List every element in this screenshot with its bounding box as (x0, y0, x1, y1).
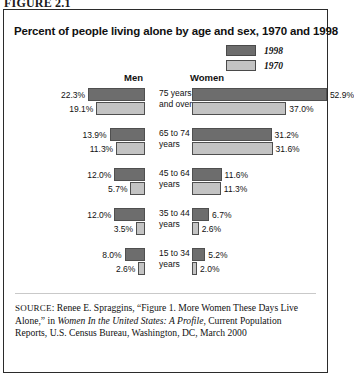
age-group-label: 65 to 74years (159, 128, 193, 149)
bar-men-1998 (88, 88, 145, 101)
bar-value-women-1998: 5.2% (208, 250, 227, 260)
column-header-men: Men (124, 72, 143, 83)
bar-value-women-1970: 2.6% (202, 224, 221, 234)
bar-group-women-1998: 6.7% (192, 208, 209, 221)
age-group-label-line2: years (159, 139, 193, 150)
age-group-label: 75 yearsand over (159, 88, 193, 109)
bar-group-men-1998: 22.3% (88, 88, 145, 101)
age-group-label-line1: 75 years (159, 88, 193, 99)
bar-group-women-1998: 11.6% (192, 168, 222, 181)
bar-group-women-1970: 2.0% (192, 262, 197, 275)
bar-group-women-1970: 31.6% (192, 142, 273, 155)
bar-value-men-1970: 5.7% (108, 184, 127, 194)
bar-men-1998 (114, 168, 145, 181)
bar-value-women-1998: 6.7% (212, 210, 231, 220)
bar-women-1970 (192, 222, 199, 235)
legend-label-1970: 1970 (264, 61, 283, 71)
chart-row: 75 yearsand over22.3%19.1%52.9%37.0% (4, 86, 327, 126)
age-group-label-line1: 35 to 44 (159, 208, 193, 219)
bar-value-men-1970: 3.5% (114, 224, 133, 234)
bar-men-1970 (138, 262, 145, 275)
bar-women-1970 (192, 262, 197, 275)
chart-row: 45 to 64years12.0%5.7%11.6%11.3% (4, 166, 327, 206)
chart-area: Percent of people living alone by age an… (4, 10, 327, 291)
chart-row: 35 to 44years12.0%3.5%6.7%2.6% (4, 206, 327, 246)
age-group-label-line2: and over (159, 99, 193, 110)
source-divider (15, 293, 316, 294)
chart-title: Percent of people living alone by age an… (14, 25, 338, 37)
bar-value-men-1998: 12.0% (87, 210, 111, 220)
chart-row: 65 to 74years13.9%11.3%31.2%31.6% (4, 126, 327, 166)
bar-group-women-1970: 2.6% (192, 222, 199, 235)
bar-value-women-1970: 11.3% (224, 184, 247, 194)
chart-rows: 75 yearsand over22.3%19.1%52.9%37.0%65 t… (4, 86, 327, 286)
bar-men-1970 (130, 182, 145, 195)
bar-value-men-1998: 22.3% (61, 90, 85, 100)
bar-women-1970 (192, 142, 273, 155)
bar-group-men-1970: 2.6% (138, 262, 145, 275)
age-group-label: 15 to 34years (159, 248, 193, 269)
bar-value-women-1970: 2.0% (200, 264, 219, 274)
age-group-label-line1: 15 to 34 (159, 248, 193, 259)
bar-women-1970 (192, 102, 286, 115)
bar-group-women-1970: 11.3% (192, 182, 221, 195)
chart-row: 15 to 34years8.0%2.6%5.2%2.0% (4, 246, 327, 286)
legend-swatch-1970 (226, 60, 256, 71)
bar-men-1998 (125, 248, 145, 261)
bar-women-1970 (192, 182, 221, 195)
bar-group-men-1970: 3.5% (136, 222, 145, 235)
bar-group-men-1998: 13.9% (110, 128, 145, 141)
bar-group-women-1998: 5.2% (192, 248, 205, 261)
age-group-label: 35 to 44years (159, 208, 193, 229)
legend-item-1970: 1970 (226, 59, 318, 72)
bar-women-1998 (192, 128, 272, 141)
bar-value-women-1970: 31.6% (276, 144, 300, 154)
bar-group-women-1998: 52.9% (192, 88, 327, 101)
legend-item-1998: 1998 (226, 44, 318, 57)
bar-men-1970 (136, 222, 145, 235)
bar-group-women-1998: 31.2% (192, 128, 272, 141)
bar-value-women-1998: 52.9% (330, 90, 354, 100)
bar-women-1998 (192, 168, 222, 181)
source-note: SOURCE: Renee E. Spraggins, “Figure 1. M… (15, 302, 315, 340)
bar-value-women-1998: 31.2% (275, 130, 299, 140)
bar-men-1970 (116, 142, 145, 155)
age-group-label: 45 to 64years (159, 168, 193, 189)
legend-label-1998: 1998 (264, 46, 283, 56)
bar-group-men-1970: 19.1% (96, 102, 145, 115)
bar-value-men-1970: 2.6% (116, 264, 135, 274)
bar-group-men-1970: 5.7% (130, 182, 145, 195)
bar-women-1998 (192, 88, 327, 101)
bar-value-men-1998: 8.0% (102, 250, 121, 260)
age-group-label-line2: years (159, 259, 193, 270)
bar-women-1998 (192, 248, 205, 261)
age-group-label-line2: years (159, 219, 193, 230)
source-publication-title: Women In the United States: A Profile (57, 315, 203, 326)
bar-men-1998 (110, 128, 145, 141)
bar-group-men-1998: 8.0% (125, 248, 145, 261)
bar-group-men-1970: 11.3% (116, 142, 145, 155)
chart-legend: 1998 1970 (226, 44, 318, 74)
bar-value-men-1998: 12.0% (87, 170, 111, 180)
bar-group-men-1998: 12.0% (114, 168, 145, 181)
column-header-women: Women (190, 72, 224, 83)
bar-value-men-1970: 11.3% (90, 144, 113, 154)
bar-value-women-1998: 11.6% (225, 170, 248, 180)
bar-value-men-1998: 13.9% (82, 130, 106, 140)
figure-panel: Percent of people living alone by age an… (3, 9, 328, 373)
age-group-label-line1: 65 to 74 (159, 128, 193, 139)
source-prefix: SOURCE (15, 303, 52, 313)
bar-group-women-1970: 37.0% (192, 102, 286, 115)
bar-women-1998 (192, 208, 209, 221)
legend-swatch-1998 (226, 45, 256, 56)
bar-value-men-1970: 19.1% (69, 104, 93, 114)
bar-value-women-1970: 37.0% (289, 104, 313, 114)
age-group-label-line1: 45 to 64 (159, 168, 193, 179)
bar-group-men-1998: 12.0% (114, 208, 145, 221)
bar-men-1970 (96, 102, 145, 115)
age-group-label-line2: years (159, 179, 193, 190)
bar-men-1998 (114, 208, 145, 221)
